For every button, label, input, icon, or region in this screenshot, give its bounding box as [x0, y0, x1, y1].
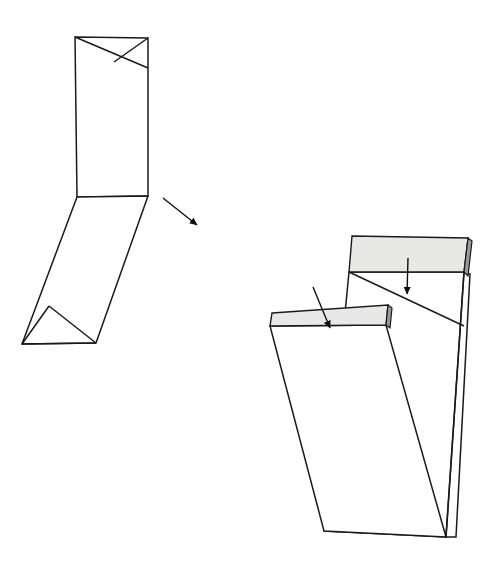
bottom-gusset-fold-right — [22, 343, 96, 344]
front-panel — [75, 37, 148, 197]
upper-flap-arrow — [407, 258, 408, 294]
upper-flap — [349, 236, 468, 272]
figure-root — [0, 0, 494, 566]
technical-drawing-canvas — [0, 0, 494, 566]
